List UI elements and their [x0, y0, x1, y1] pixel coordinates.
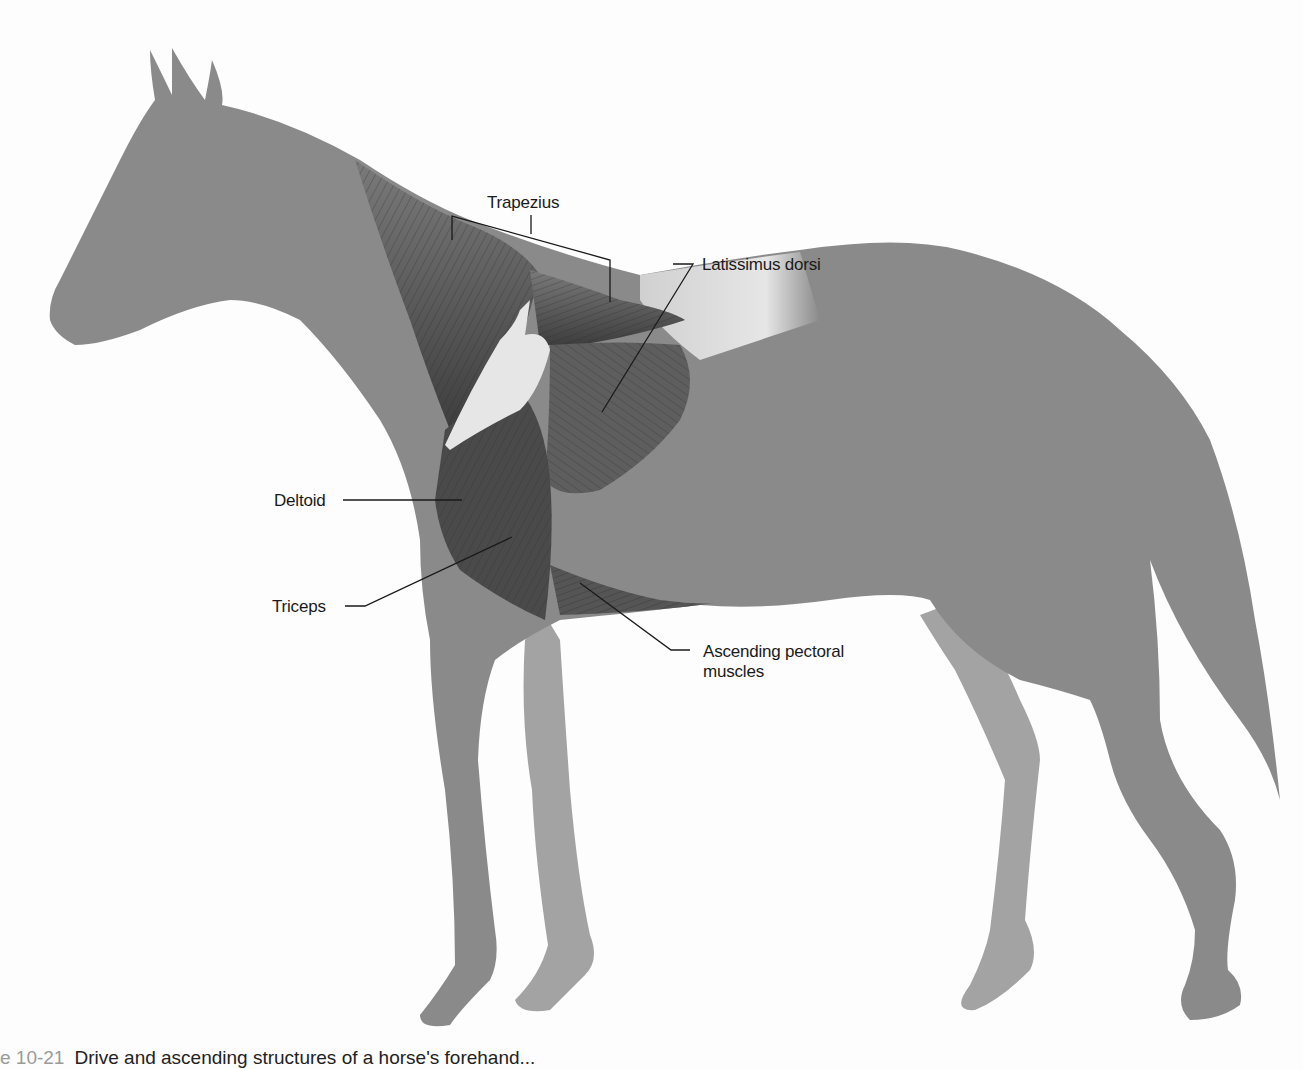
figure-number: e 10-21: [0, 1047, 64, 1068]
label-triceps: Triceps: [272, 597, 326, 617]
horse-body: [50, 48, 1280, 1026]
label-ascending-pectoral-line2: muscles: [703, 662, 764, 682]
label-trapezius: Trapezius: [487, 193, 559, 213]
figure-caption: e 10-21Drive and ascending structures of…: [0, 1047, 535, 1069]
label-latissimus-dorsi: Latissimus dorsi: [702, 255, 821, 275]
label-ascending-pectoral: Ascending pectoral: [703, 642, 844, 662]
caption-text: Drive and ascending structures of a hors…: [74, 1047, 535, 1068]
label-deltoid: Deltoid: [274, 491, 326, 511]
